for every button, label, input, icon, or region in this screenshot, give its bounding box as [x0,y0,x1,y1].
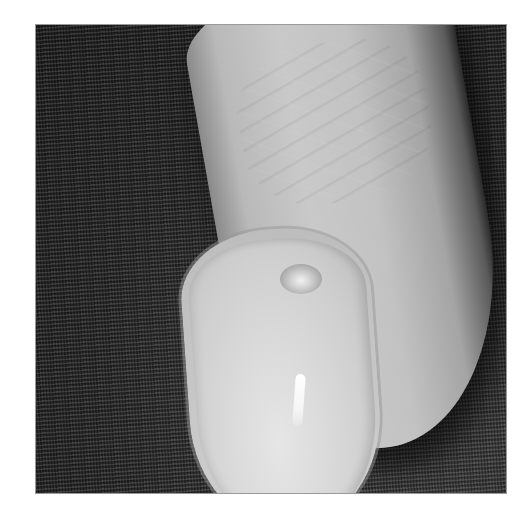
skin-wrinkles [227,27,442,218]
cuticle-lesion [280,264,322,294]
clinical-photo [35,24,507,494]
figure-canvas [0,0,523,505]
